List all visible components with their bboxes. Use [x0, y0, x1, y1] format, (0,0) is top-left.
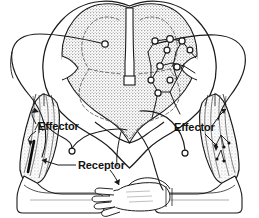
label-receptor: Receptor — [78, 160, 125, 171]
reflex-arc-figure: Effector Effector Receptor — [0, 0, 259, 218]
label-effector-right: Effector — [174, 122, 215, 133]
label-effector-left: Effector — [38, 121, 79, 132]
reflex-arc-illustration — [0, 0, 259, 218]
